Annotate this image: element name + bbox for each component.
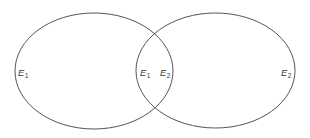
label-subscript: 2	[167, 72, 171, 79]
label-letter: E	[18, 67, 24, 78]
label-subscript: 1	[147, 72, 151, 79]
label-letter: E	[281, 67, 287, 78]
label-e2-intersection: E2	[160, 68, 170, 80]
label-subscript: 1	[25, 72, 29, 79]
label-letter: E	[160, 67, 166, 78]
venn-canvas	[0, 0, 310, 138]
label-e1-intersection: E1	[140, 68, 150, 80]
label-e1-outer: E1	[18, 68, 28, 80]
label-subscript: 2	[288, 72, 292, 79]
venn-diagram: E1 E1 E2 E2	[0, 0, 310, 138]
label-letter: E	[140, 67, 146, 78]
label-e2-outer: E2	[281, 68, 291, 80]
